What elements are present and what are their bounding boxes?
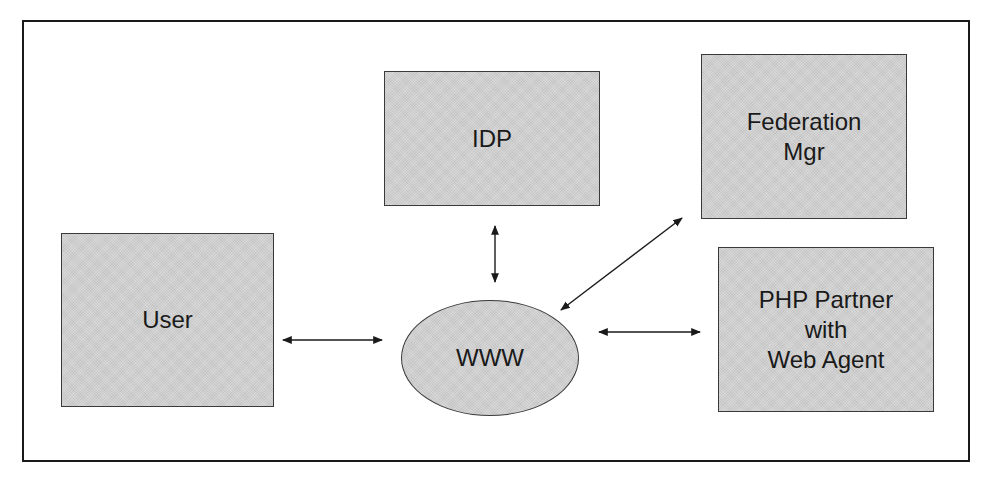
php-partner-label: PHP Partner with Web Agent <box>759 285 893 375</box>
federation-mgr-label: Federation Mgr <box>747 107 862 167</box>
user-label: User <box>142 305 193 335</box>
federation-mgr-node: Federation Mgr <box>701 54 907 219</box>
idp-label: IDP <box>472 124 512 154</box>
www-label: WWW <box>456 343 524 373</box>
php-partner-node: PHP Partner with Web Agent <box>718 247 934 412</box>
user-node: User <box>61 233 274 407</box>
idp-node: IDP <box>384 71 600 206</box>
www-node: WWW <box>401 300 579 416</box>
